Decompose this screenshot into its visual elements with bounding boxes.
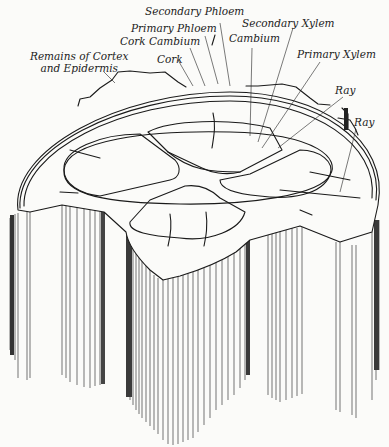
label-cork: Cork — [157, 53, 183, 65]
label-primary-xylem: Primary Xylem — [297, 48, 376, 60]
label-cork-cambium: Cork Cambium — [120, 35, 200, 47]
stem-section-diagram: Secondary Phloem Primary Phloem Cork Cam… — [0, 0, 389, 447]
label-secondary-xylem: Secondary Xylem — [242, 17, 335, 29]
label-remains-line2: and Epidermis — [30, 62, 128, 74]
label-secondary-phloem: Secondary Phloem — [145, 5, 244, 17]
label-remains-line1: Remains of Cortex — [30, 50, 128, 62]
label-cambium: Cambium — [229, 32, 280, 44]
label-remains-cortex-epidermis: Remains of Cortex and Epidermis — [30, 50, 128, 74]
label-primary-phloem: Primary Phloem — [131, 22, 217, 34]
label-ray-1: Ray — [335, 84, 355, 96]
label-ray-2: Ray — [354, 116, 374, 128]
